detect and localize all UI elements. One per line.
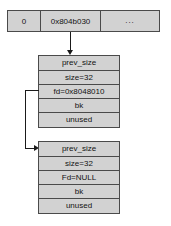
chunk-1-row-fd-label: fd=0x8048010 [54, 88, 105, 96]
chunk-2-row-bk: bk [38, 184, 120, 198]
chunk-1-row-bk: bk [38, 98, 120, 112]
chunk-2-row-unused: unused [38, 198, 120, 214]
chunk-1-row-prev-size: prev_size [38, 55, 120, 70]
chunk-1: prev_size size=32 fd=0x8048010 bk unused [38, 55, 120, 128]
pointer-table-cell-2-label: ... [125, 16, 135, 25]
pointer-table-cell-0: 0 [8, 11, 41, 31]
chunk-2-row-prev-size-label: prev_size [62, 145, 96, 153]
chunk-2-row-fd-label: Fd=NULL [62, 174, 96, 182]
diagram-canvas: 0 0x804b030 ... prev_size size=32 fd=0x8… [0, 0, 171, 226]
pointer-table-cell-1: 0x804b030 [41, 11, 101, 31]
connector-table-to-chunk1-line [70, 32, 71, 52]
connector-fd-top-segment [25, 90, 39, 91]
connector-fd-vertical-segment [25, 90, 26, 148]
chunk-2-row-prev-size: prev_size [38, 141, 120, 156]
chunk-1-row-prev-size-label: prev_size [62, 59, 96, 67]
chunk-1-row-unused: unused [38, 112, 120, 128]
pointer-table-cell-1-label: 0x804b030 [51, 17, 91, 26]
chunk-1-row-size: size=32 [38, 70, 120, 84]
chunk-1-row-bk-label: bk [75, 102, 83, 110]
chunk-1-row-size-label: size=32 [65, 74, 93, 82]
chunk-2-row-fd: Fd=NULL [38, 170, 120, 184]
pointer-table: 0 0x804b030 ... [7, 10, 160, 32]
chunk-1-row-unused-label: unused [66, 116, 92, 124]
chunk-2-row-size-label: size=32 [65, 160, 93, 168]
chunk-2-row-bk-label: bk [75, 188, 83, 196]
chunk-2: prev_size size=32 Fd=NULL bk unused [38, 141, 120, 214]
chunk-2-row-unused-label: unused [66, 202, 92, 210]
pointer-table-cell-2: ... [101, 11, 159, 31]
chunk-1-row-fd: fd=0x8048010 [38, 84, 120, 98]
chunk-2-row-size: size=32 [38, 156, 120, 170]
pointer-table-cell-0-label: 0 [22, 17, 26, 26]
